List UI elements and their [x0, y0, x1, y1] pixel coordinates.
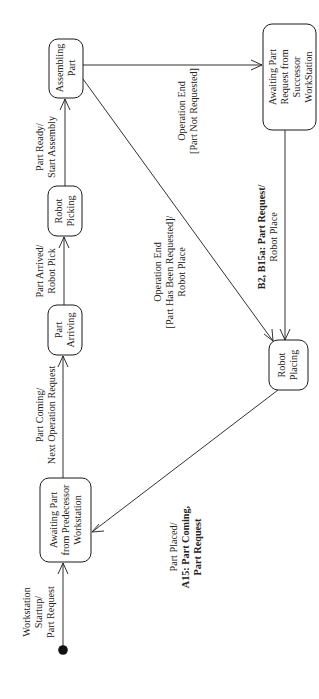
transition-label-line: Part Ready/ [34, 123, 45, 171]
svg-text:Awaiting Part: Awaiting Part [48, 492, 59, 548]
svg-text:Robot Place: Robot Place [176, 247, 187, 297]
transition-label-line: Part Request [192, 518, 203, 575]
svg-text:Workstation: Workstation [21, 587, 32, 637]
transition-label-line: Startup/ [33, 596, 44, 628]
transition-label-line: Part Placed/ [168, 522, 179, 571]
transition-label-op-end-not-requested: Operation End [Part Not Requested] [176, 68, 199, 154]
state-label-line: Awaiting Part [267, 49, 278, 105]
transition-label-line: Next Operation Request [46, 366, 57, 465]
transition-label-startup: Workstation Startup/ Part Request [21, 586, 56, 638]
svg-text:Part Arrived/: Part Arrived/ [34, 244, 45, 297]
transition-label-line: Robot Pick [46, 247, 57, 293]
transition-label-line: Operation End [176, 81, 187, 141]
state-label-line: Robot [276, 352, 287, 377]
transition-label-line: B2, B15a: Part Request/ [256, 184, 267, 289]
state-diagram-canvas: Awaiting Part from Predecessor Workstati… [0, 0, 319, 699]
transition-label-line: Operation End [152, 242, 163, 302]
transition-label-op-end-requested: Operation End [Part Has Been Requested]/… [152, 215, 187, 328]
svg-text:Operation End: Operation End [176, 81, 187, 141]
transition-label-part-placed: Part Placed/ A15: Part Coming, Part Requ… [168, 505, 203, 588]
svg-text:Part: Part [53, 322, 64, 339]
state-robot-placing[interactable]: Robot Placing [269, 340, 308, 390]
state-part-arriving[interactable]: Part Arriving [48, 305, 82, 355]
transition-label-line: A15: Part Coming, [180, 505, 191, 588]
svg-text:Robot: Robot [53, 198, 64, 223]
svg-text:[Part Has Been Requested]/: [Part Has Been Requested]/ [164, 215, 175, 328]
svg-text:A15: Part Coming,: A15: Part Coming, [180, 505, 191, 588]
svg-text:Workstation: Workstation [72, 495, 83, 545]
svg-text:Placing: Placing [288, 350, 299, 381]
svg-text:Picking: Picking [65, 195, 76, 226]
transition-part-request-edge [280, 130, 290, 340]
transition-label-line: Part Coming/ [34, 388, 45, 443]
svg-text:Part Request: Part Request [45, 586, 56, 638]
state-diagram: Awaiting Part from Predecessor Workstati… [0, 0, 319, 699]
svg-text:B2, B15a: Part Request/: B2, B15a: Part Request/ [256, 184, 267, 289]
state-label-line: Placing [288, 350, 299, 381]
svg-text:Robot: Robot [276, 352, 287, 377]
state-label-line: Assembling [54, 44, 65, 93]
svg-text:Part: Part [66, 60, 77, 77]
svg-text:Startup/: Startup/ [33, 596, 44, 628]
svg-text:WorkStation: WorkStation [303, 51, 314, 102]
svg-text:Request from: Request from [279, 49, 290, 104]
svg-text:Next Operation Request: Next Operation Request [46, 366, 57, 465]
transition-label-line: Robot Place [268, 212, 279, 262]
transition-label-line: Part Arrived/ [34, 244, 45, 297]
svg-text:Start Assembly: Start Assembly [46, 115, 57, 178]
svg-text:Part Ready/: Part Ready/ [34, 123, 45, 171]
transition-label-line: Part Request [45, 586, 56, 638]
svg-text:Part Coming/: Part Coming/ [34, 388, 45, 443]
state-assembling-part[interactable]: Assembling Part [49, 39, 83, 98]
state-label-line: Request from [279, 49, 290, 104]
state-label-line: Successor [291, 56, 302, 97]
state-label-line: Workstation [72, 495, 83, 545]
svg-text:[Part Not Requested]: [Part Not Requested] [188, 68, 199, 154]
svg-text:Awaiting Part: Awaiting Part [267, 49, 278, 105]
svg-text:Operation End: Operation End [152, 242, 163, 302]
transition-label-line: Start Assembly [46, 115, 57, 178]
svg-text:Assembling: Assembling [54, 44, 65, 93]
state-awaiting-successor[interactable]: Awaiting Part Request from Successor Wor… [263, 24, 316, 130]
transition-part-ready-edge [60, 99, 70, 186]
svg-text:Robot Pick: Robot Pick [46, 247, 57, 293]
transition-op-end-not-requested-edge [83, 60, 262, 70]
state-label-line: Part [53, 322, 64, 339]
state-label-line: Arriving [65, 312, 76, 347]
transition-label-line: [Part Not Requested] [188, 68, 199, 154]
state-awaiting-predecessor[interactable]: Awaiting Part from Predecessor Workstati… [40, 478, 91, 562]
transition-part-coming-edge [58, 356, 68, 478]
state-label-line: Robot [53, 198, 64, 223]
transition-part-arrived-edge [59, 237, 69, 305]
transition-label-part-coming: Part Coming/ Next Operation Request [34, 366, 57, 465]
svg-text:from Predecessor: from Predecessor [60, 484, 71, 556]
svg-text:Part Request: Part Request [192, 518, 203, 575]
svg-text:Arriving: Arriving [65, 312, 76, 347]
state-label-line: Awaiting Part [48, 492, 59, 548]
transition-label-part-ready: Part Ready/ Start Assembly [34, 115, 57, 178]
transition-label-line: [Part Has Been Requested]/ [164, 215, 175, 328]
state-label-line: Picking [65, 195, 76, 226]
state-label-line: from Predecessor [60, 484, 71, 556]
transition-label-line: Robot Place [176, 247, 187, 297]
initial-state-dot [58, 645, 68, 655]
state-robot-picking[interactable]: Robot Picking [48, 186, 82, 236]
state-label-line: Part [66, 60, 77, 77]
transition-label-part-request: B2, B15a: Part Request/ Robot Place [256, 184, 279, 289]
svg-text:Successor: Successor [291, 56, 302, 97]
transition-label-line: Workstation [21, 587, 32, 637]
svg-text:Robot Place: Robot Place [268, 212, 279, 262]
transition-startup-edge [58, 563, 68, 650]
transition-label-part-arrived: Part Arrived/ Robot Pick [34, 244, 57, 297]
state-label-line: WorkStation [303, 51, 314, 102]
svg-text:Part Placed/: Part Placed/ [168, 522, 179, 571]
